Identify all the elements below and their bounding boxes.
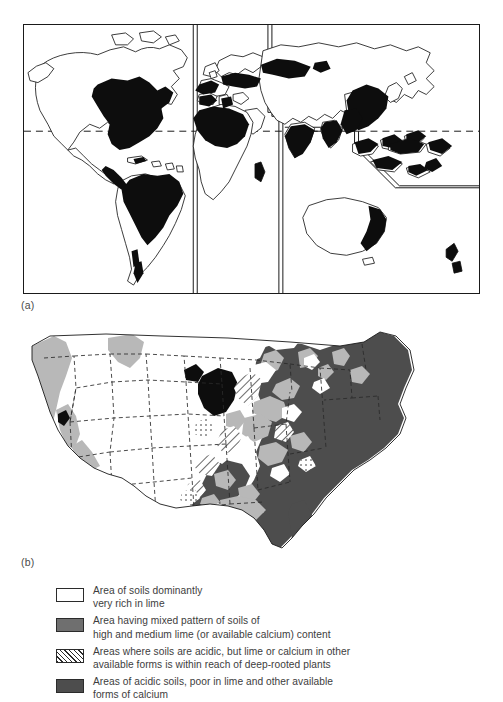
- legend-item-acidic-poor: Areas of acidic soils, poor in lime and …: [56, 675, 476, 701]
- legend-label-lime-rich: Area of soils dominantly very rich in li…: [93, 584, 202, 610]
- legend-swatch-dark-gray-icon: [56, 679, 84, 693]
- legend-label-mixed-pattern: Area having mixed pattern of soils of hi…: [93, 614, 331, 640]
- legend-item-mixed-pattern: Area having mixed pattern of soils of hi…: [56, 614, 476, 640]
- legend-swatch-hatched-icon: [56, 649, 84, 663]
- legend-swatch-white-icon: [56, 588, 84, 602]
- legend-label-acidic-reachable: Areas where soils are acidic, but lime o…: [93, 645, 350, 671]
- panel-label-b: (b): [21, 556, 34, 568]
- panel-label-a: (a): [21, 299, 34, 311]
- legend-item-acidic-reachable: Areas where soils are acidic, but lime o…: [56, 645, 476, 671]
- legend-swatch-medium-gray-icon: [56, 618, 84, 632]
- legend: Area of soils dominantly very rich in li…: [56, 584, 476, 702]
- legend-label-acidic-poor: Areas of acidic soils, poor in lime and …: [93, 675, 333, 701]
- us-map-fills: [14, 318, 484, 558]
- world-map-svg: [24, 25, 479, 293]
- us-map-svg: [14, 318, 484, 558]
- united-states-soil-lime-map: [14, 318, 484, 558]
- world-distribution-map: [23, 24, 480, 294]
- legend-item-lime-rich: Area of soils dominantly very rich in li…: [56, 584, 476, 610]
